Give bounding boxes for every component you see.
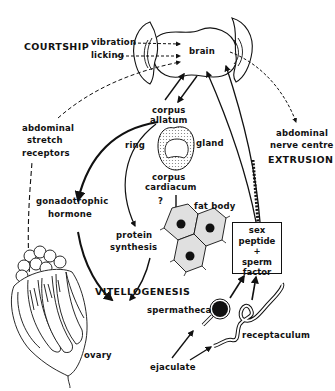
label-gonadotrophic-1: gonadotrophic [36,196,108,207]
label-abdominal-stretch-1: abdominal [22,123,74,134]
label-question: ? [158,196,163,207]
label-vitellogenesis: VITELLOGENESIS [95,286,190,297]
label-vibration: vibration [91,37,136,48]
label-abdominal-nerve-1: abdominal [276,128,328,139]
box-line-peptide: peptide [233,236,281,247]
label-spermatheca: spermatheca [147,305,212,316]
fat-body-cells [160,204,230,276]
label-gonadotrophic-2: hormone [48,209,92,220]
label-abdominal-nerve-2: nerve centre [270,140,334,151]
box-line-plus: + [233,246,281,257]
label-receptaculum: receptaculum [242,330,310,341]
label-ring: ring [125,140,145,151]
label-fat-body: fat body [194,201,236,212]
label-abdominal-stretch-3: receptors [22,148,70,159]
label-abdominal-stretch-2: stretch [27,135,63,146]
label-ejaculate: ejaculate [150,362,196,373]
corpus-allatum-gland [158,127,194,170]
label-protein-1: protein [116,230,152,241]
label-extrusion: EXTRUSION [268,154,333,165]
label-licking: licking [91,50,124,61]
sex-peptide-sperm-factor-box: sex peptide + sperm factor [232,222,282,274]
label-courtship: COURTSHIP [24,41,89,52]
label-brain: brain [189,46,215,57]
label-gland: gland [196,138,224,149]
box-line-factor: factor [233,267,281,278]
ovary-drawing [11,246,87,388]
label-corpus-cardiacum-2: cardiacum [145,182,196,193]
label-ovary: ovary [84,350,112,361]
box-line-sex: sex [233,225,281,236]
label-corpus-allatum-2: allatum [150,115,188,126]
label-protein-2: synthesis [110,242,157,253]
box-line-sperm: sperm [233,257,281,268]
